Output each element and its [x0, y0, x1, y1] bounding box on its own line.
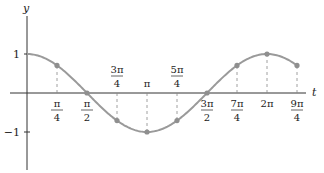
svg-text:4: 4 — [54, 112, 60, 123]
x-tick-label: 7π4 — [231, 98, 244, 123]
svg-text:π: π — [54, 98, 61, 109]
data-point — [114, 118, 119, 123]
svg-text:9π: 9π — [291, 98, 304, 109]
data-point — [54, 63, 59, 68]
svg-text:π: π — [144, 78, 151, 89]
x-tick-label: π4 — [51, 98, 63, 123]
svg-text:4: 4 — [294, 112, 300, 123]
data-point — [84, 90, 89, 95]
x-tick-label: 3π4 — [111, 64, 124, 89]
y-axis-label: y — [22, 2, 30, 15]
x-tick-label: 3π2 — [201, 98, 214, 123]
svg-text:4: 4 — [114, 78, 120, 89]
cosine-chart: 1−1 π4π23π4π5π43π27π42π9π4 t y — [0, 0, 324, 173]
svg-text:3π: 3π — [201, 98, 214, 109]
x-axis-label: t — [312, 86, 317, 99]
data-point — [264, 51, 269, 56]
svg-text:2: 2 — [204, 112, 210, 123]
svg-text:4: 4 — [234, 112, 240, 123]
y-tick-label: 1 — [13, 48, 20, 61]
x-tick-label: π — [144, 78, 151, 89]
y-tick-label: −1 — [4, 126, 20, 139]
x-tick-label: 5π4 — [171, 64, 184, 89]
data-point — [234, 63, 239, 68]
data-point — [174, 118, 179, 123]
x-tick-label: 2π — [261, 98, 274, 109]
data-point — [204, 90, 209, 95]
x-tick-label: π2 — [81, 98, 93, 123]
svg-text:4: 4 — [174, 78, 180, 89]
svg-text:2π: 2π — [261, 98, 274, 109]
svg-text:π: π — [84, 98, 91, 109]
svg-text:5π: 5π — [171, 64, 184, 75]
svg-text:2: 2 — [84, 112, 90, 123]
x-tick-label: 9π4 — [291, 98, 304, 123]
svg-text:3π: 3π — [111, 64, 124, 75]
axes: 1−1 — [4, 16, 306, 170]
data-point — [144, 129, 149, 134]
data-point — [294, 63, 299, 68]
svg-text:7π: 7π — [231, 98, 244, 109]
